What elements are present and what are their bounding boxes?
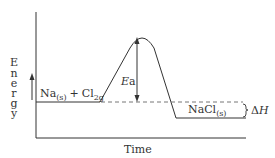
products-label: NaCl(s)	[188, 103, 226, 118]
activation-energy-label: Ea	[120, 75, 136, 88]
reactants-label: Na(s)+Cl2g	[40, 87, 104, 102]
activation-energy-arrow-icon	[135, 37, 140, 102]
energy-profile-diagram: E n e r g y Ea Na(s)+Cl2g NaCl(s) ΔH Tim…	[0, 0, 275, 158]
energy-arrow-icon	[30, 73, 35, 100]
y-axis-label: E n e r g y	[10, 56, 18, 120]
enthalpy-change-label: ΔH	[251, 104, 269, 117]
enthalpy-brace-icon	[243, 104, 248, 117]
svg-text:y: y	[10, 107, 18, 120]
x-axis-label: Time	[124, 143, 152, 156]
